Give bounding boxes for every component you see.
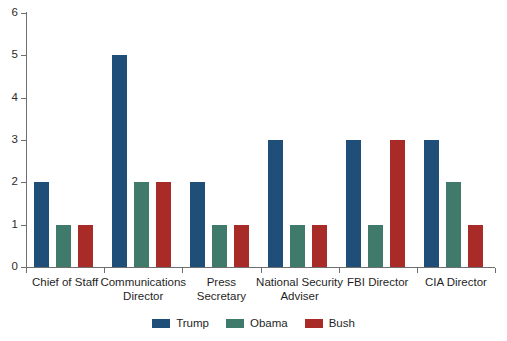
bar [290, 225, 305, 267]
x-axis-category-label: Press Secretary [176, 276, 266, 303]
y-axis-tick-label: 6 [0, 7, 18, 19]
x-axis-category-label: Chief of Staff [20, 276, 110, 290]
bar [268, 140, 283, 267]
x-axis-tick [182, 268, 183, 273]
bar [346, 140, 361, 267]
chart-legend: TrumpObamaBush [0, 317, 507, 329]
x-axis-tick [339, 268, 340, 273]
legend-item: Bush [305, 317, 355, 329]
x-axis-category-label: National Security Adviser [255, 276, 345, 303]
bar [234, 225, 249, 267]
bar [468, 225, 483, 267]
legend-label: Trump [176, 317, 209, 329]
bar [78, 225, 93, 267]
legend-item: Trump [152, 317, 209, 329]
x-axis-tick [417, 268, 418, 273]
bar [368, 225, 383, 267]
legend-swatch-bush [305, 319, 323, 328]
legend-label: Bush [329, 317, 355, 329]
legend-label: Obama [250, 317, 288, 329]
bar [134, 182, 149, 267]
bar [56, 225, 71, 267]
y-axis-tick-label: 3 [0, 134, 18, 146]
legend-swatch-obama [226, 319, 244, 328]
x-axis-tick [26, 268, 27, 273]
bar [190, 182, 205, 267]
x-axis-category-label: Communications Director [98, 276, 188, 303]
y-axis-tick-label: 0 [0, 261, 18, 273]
bar [156, 182, 171, 267]
bar [212, 225, 227, 267]
x-axis-category-label: FBI Director [333, 276, 423, 290]
legend-swatch-trump [152, 319, 170, 328]
x-axis-tick [104, 268, 105, 273]
bar [446, 182, 461, 267]
bar [112, 55, 127, 267]
x-axis-category-label: CIA Director [411, 276, 501, 290]
y-axis-tick-label: 5 [0, 49, 18, 61]
bar-chart: 0123456 Chief of StaffCommunications Dir… [0, 0, 507, 341]
x-axis-tick [495, 268, 496, 273]
bar [424, 140, 439, 267]
bar [390, 140, 405, 267]
y-axis-tick-label: 2 [0, 176, 18, 188]
x-axis-tick [261, 268, 262, 273]
bar [34, 182, 49, 267]
y-axis-tick-label: 1 [0, 219, 18, 231]
y-axis-tick-label: 4 [0, 92, 18, 104]
bar [312, 225, 327, 267]
legend-item: Obama [226, 317, 288, 329]
bars-layer [26, 13, 495, 267]
